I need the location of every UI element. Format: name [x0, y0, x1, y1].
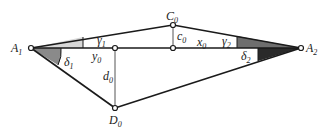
- label-gamma2: γ2: [222, 34, 231, 50]
- label-c0-seg: c0: [177, 29, 186, 45]
- label-a2: A2: [305, 41, 317, 57]
- point-d0: [113, 106, 118, 111]
- label-a1: A1: [10, 41, 22, 57]
- point-a2: [299, 46, 304, 51]
- label-y0: y0: [91, 49, 101, 65]
- label-c0: C0: [166, 9, 178, 25]
- label-d0: D0: [108, 113, 122, 129]
- point-a1: [29, 46, 34, 51]
- label-d0-seg: d0: [103, 69, 113, 85]
- label-delta2: δ2: [241, 49, 251, 65]
- edge-d0-a2: [115, 48, 301, 108]
- point-p2: [171, 46, 176, 51]
- point-p1: [113, 46, 118, 51]
- label-x0: x0: [196, 35, 206, 51]
- geometry-diagram: A1 A2 C0 D0 y0 x0 c0 d0 γ1 δ1 γ2 δ2: [0, 0, 331, 134]
- label-delta1: δ1: [64, 55, 74, 71]
